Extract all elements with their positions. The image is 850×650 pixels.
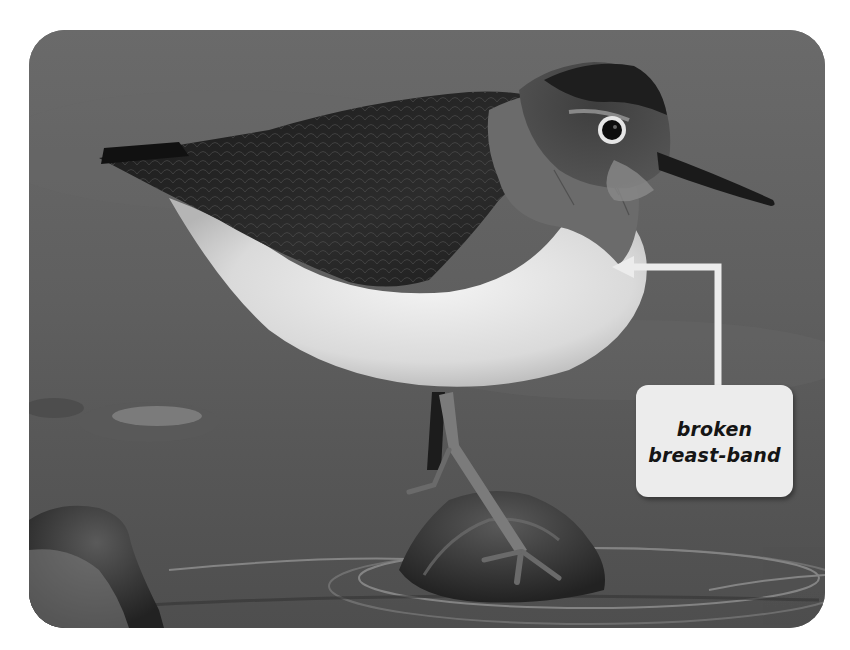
bird-eye <box>602 120 622 140</box>
callout-label-line-2: breast-band <box>648 442 781 468</box>
callout-label-box: broken breast-band <box>636 385 793 497</box>
sandpiper-illustration <box>29 30 825 628</box>
figure-canvas: broken breast-band <box>0 0 850 650</box>
callout-label-line-1: broken <box>677 416 753 442</box>
bird-photo <box>29 30 825 628</box>
